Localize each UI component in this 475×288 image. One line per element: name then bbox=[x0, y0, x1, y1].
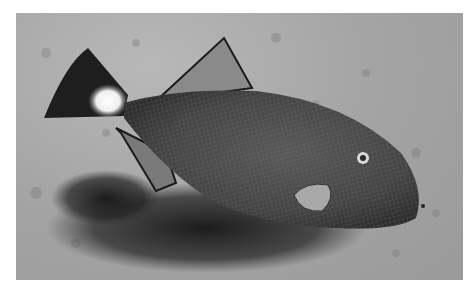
fish-mouth bbox=[421, 204, 425, 208]
tail-white-patch bbox=[88, 84, 128, 118]
fish-photograph: A triggerfish with a dark tail fin marke… bbox=[16, 13, 463, 280]
fish-illustration bbox=[16, 13, 463, 280]
